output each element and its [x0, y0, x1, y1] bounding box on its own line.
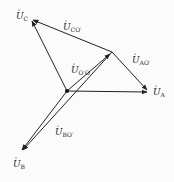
vector-uao [112, 52, 147, 90]
label-uoo: UO′O [71, 65, 90, 76]
label-ubo: UBO′ [55, 127, 74, 138]
label-uc: UC [16, 11, 29, 22]
vector-ub [22, 91, 67, 150]
vector-ua [67, 91, 147, 92]
phasor-diagram: UC UCO′ UO′O UAO′ UA UBO′ UB [0, 0, 174, 182]
label-uao: UAO′ [132, 55, 151, 66]
label-uco: UCO′ [63, 22, 82, 33]
phasor-dot-marks [15, 9, 156, 158]
label-ua: UA [153, 87, 166, 98]
phasor-svg: UC UCO′ UO′O UAO′ UA UBO′ UB [0, 0, 174, 182]
label-ub: UB [13, 159, 26, 170]
neutral-point-dot [65, 89, 69, 93]
